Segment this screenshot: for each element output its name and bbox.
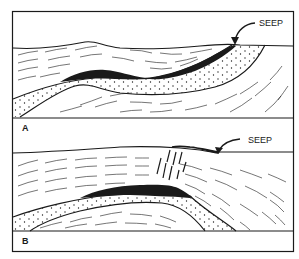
sandstone-layer-b — [13, 194, 236, 231]
panel-letter-a: A — [22, 123, 29, 133]
ground-surface-b — [13, 147, 293, 153]
seep-label-a: SEEP — [259, 18, 283, 28]
panel-b: SEEP B — [13, 135, 293, 246]
panel-letter-b: B — [22, 236, 29, 246]
seep-arrowhead-a — [231, 37, 239, 45]
geologic-cross-section-figure: SEEP A — [0, 0, 299, 259]
panel-a: SEEP A — [13, 18, 293, 133]
sandstone-layer-a — [13, 45, 265, 117]
seep-label-b: SEEP — [248, 135, 272, 145]
fracture-zone-b — [157, 150, 186, 180]
